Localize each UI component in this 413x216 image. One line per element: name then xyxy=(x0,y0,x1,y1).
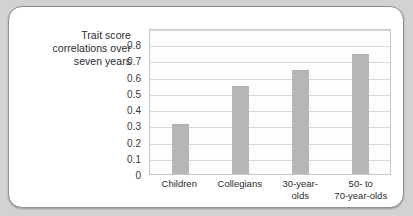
bar-50-to-70-year-olds xyxy=(352,54,369,174)
bar-slot xyxy=(210,30,270,174)
y-axis-title-line-1: Trait score xyxy=(23,29,131,42)
y-tick-label: 0.2 xyxy=(127,137,141,148)
y-axis-title-line-2: correlations over xyxy=(23,42,131,55)
plot-area xyxy=(149,29,391,175)
y-tick-label: 0.8 xyxy=(127,40,141,51)
y-tick-label: 0.7 xyxy=(127,56,141,67)
x-axis-category-labels: ChildrenCollegians30-year-olds50- to70-y… xyxy=(149,178,391,201)
bar-slot xyxy=(330,30,390,174)
x-label-line: Children xyxy=(149,178,210,190)
y-axis-tick-labels: 00.10.20.30.40.50.60.70.8 xyxy=(117,29,145,175)
figure-card: Trait score correlations over seven year… xyxy=(8,6,404,208)
x-label-children: Children xyxy=(149,178,210,201)
x-label-line: 50- to xyxy=(331,178,392,190)
x-label-collegians: Collegians xyxy=(210,178,271,201)
bar-slot xyxy=(270,30,330,174)
y-tick-label: 0.1 xyxy=(127,153,141,164)
figure-backdrop: Trait score correlations over seven year… xyxy=(0,0,413,216)
y-tick-label: 0.3 xyxy=(127,121,141,132)
x-label-line: 30-year- xyxy=(270,178,331,190)
x-label-line: 70-year-olds xyxy=(331,190,392,202)
y-tick-label: 0.6 xyxy=(127,72,141,83)
bar-children xyxy=(172,124,189,174)
bar-30-year-olds xyxy=(292,70,309,174)
y-tick-label: 0.4 xyxy=(127,105,141,116)
y-tick-label: 0.5 xyxy=(127,88,141,99)
bar-collegians xyxy=(232,86,249,174)
x-label-line: olds xyxy=(270,190,331,202)
x-label-line: Collegians xyxy=(210,178,271,190)
y-axis-title-line-3: seven years xyxy=(23,55,131,68)
y-axis-title: Trait score correlations over seven year… xyxy=(23,29,131,68)
bar-series xyxy=(150,30,390,174)
bar-slot xyxy=(150,30,210,174)
x-label-30-year-olds: 30-year-olds xyxy=(270,178,331,201)
x-label-50-to-70-year-olds: 50- to70-year-olds xyxy=(331,178,392,201)
y-tick-label: 0 xyxy=(135,170,141,181)
